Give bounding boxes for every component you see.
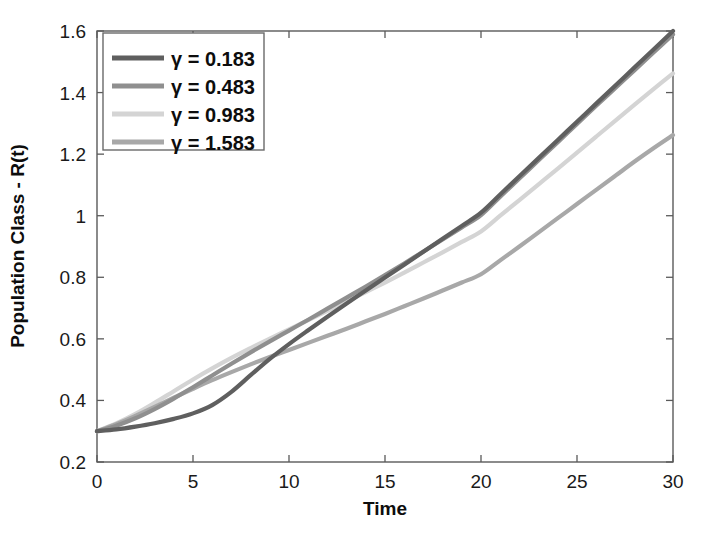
y-tick-label: 0.4	[60, 390, 87, 411]
x-tick-label: 5	[188, 471, 199, 492]
x-tick-label: 20	[470, 471, 491, 492]
y-tick-label: 1.2	[60, 144, 86, 165]
y-tick-label: 0.8	[60, 267, 86, 288]
x-tick-label: 0	[92, 471, 103, 492]
chart-figure: 051015202530 0.20.40.60.811.21.41.6 Time…	[0, 0, 714, 538]
y-axis-tick-labels: 0.20.40.60.811.21.41.6	[60, 21, 87, 473]
y-tick-label: 0.6	[60, 329, 86, 350]
legend-label: γ = 0.183	[171, 48, 255, 70]
x-tick-label: 30	[662, 471, 683, 492]
y-tick-label: 1.4	[60, 83, 87, 104]
x-tick-label: 10	[278, 471, 299, 492]
x-tick-label: 25	[566, 471, 587, 492]
line-chart: 051015202530 0.20.40.60.811.21.41.6 Time…	[0, 0, 714, 538]
y-tick-label: 0.2	[60, 452, 86, 473]
chart-legend: γ = 0.183γ = 0.483γ = 0.983γ = 1.583	[103, 33, 264, 154]
x-tick-label: 15	[374, 471, 395, 492]
y-tick-label: 1	[75, 206, 86, 227]
y-tick-label: 1.6	[60, 21, 86, 42]
x-axis-tick-labels: 051015202530	[92, 471, 684, 492]
x-axis-title: Time	[363, 498, 407, 519]
legend-label: γ = 0.483	[171, 76, 255, 98]
legend-label: γ = 0.983	[171, 104, 255, 126]
y-axis-title: Population Class - R(t)	[7, 144, 28, 348]
legend-label: γ = 1.583	[171, 132, 255, 154]
